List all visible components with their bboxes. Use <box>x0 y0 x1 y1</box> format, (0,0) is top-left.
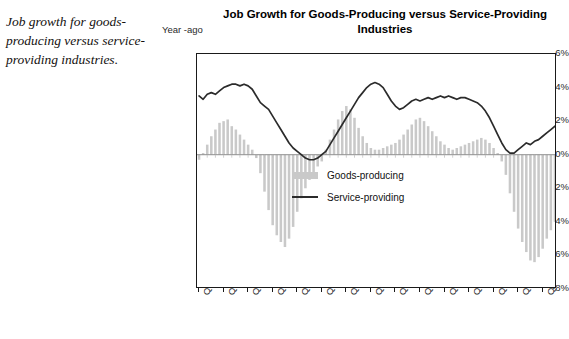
x-axis-tick-mark <box>517 288 518 292</box>
bar <box>402 135 405 155</box>
legend-label-goods-producing: Goods-producing <box>327 170 404 181</box>
bar <box>550 155 553 231</box>
bar <box>247 145 250 155</box>
bar <box>406 130 409 155</box>
legend-swatch-bar-icon <box>292 172 318 179</box>
figure-caption: Job growth for goods-producing versus se… <box>6 12 154 69</box>
bar <box>280 155 283 242</box>
bar <box>517 155 520 229</box>
service-providing-line <box>199 83 555 160</box>
bar <box>554 155 556 222</box>
bar <box>370 148 373 155</box>
legend-swatch-line-icon <box>292 196 318 198</box>
legend-item-goods-producing: Goods-producing <box>292 164 404 186</box>
bar <box>411 125 414 155</box>
bar <box>505 155 508 175</box>
bar <box>210 136 213 154</box>
bar <box>218 123 221 155</box>
bar <box>537 155 540 257</box>
x-axis-tick-mark <box>394 288 395 292</box>
bar <box>284 155 287 247</box>
bar <box>546 155 549 239</box>
chart-title: Job Growth for Goods-Producing versus Se… <box>215 7 555 36</box>
bar <box>353 118 356 155</box>
bar <box>337 119 340 154</box>
x-axis-tick-mark <box>444 288 445 292</box>
x-axis-tick-mark <box>468 288 469 292</box>
x-axis-tick-mark <box>272 288 273 292</box>
bar <box>529 155 532 261</box>
bar <box>541 155 544 249</box>
bar <box>533 155 536 262</box>
bar <box>525 155 528 252</box>
bar <box>435 136 438 154</box>
x-axis-tick-mark <box>296 288 297 292</box>
bar <box>243 140 246 155</box>
bar <box>439 141 442 154</box>
bar <box>357 128 360 155</box>
bar <box>427 126 430 155</box>
bar <box>415 119 418 154</box>
bar <box>451 150 454 155</box>
chart-legend: Goods-producing Service-providing <box>292 164 404 208</box>
bar <box>239 135 242 155</box>
bar <box>447 148 450 155</box>
bar <box>361 136 364 154</box>
bar <box>476 140 479 155</box>
bar <box>366 143 369 155</box>
bar <box>333 130 336 155</box>
bar <box>349 109 352 154</box>
bar <box>259 155 262 173</box>
bar <box>386 146 389 154</box>
bar <box>345 106 348 155</box>
x-axis-tick-mark <box>419 288 420 292</box>
bar <box>231 126 234 155</box>
bar <box>460 146 463 154</box>
bar <box>390 145 393 155</box>
y-axis-unit-label: Year -ago <box>162 24 203 35</box>
bar <box>480 138 483 155</box>
bar <box>484 140 487 155</box>
bar <box>235 130 238 155</box>
x-axis-tick-mark <box>370 288 371 292</box>
bar <box>214 130 217 155</box>
bar <box>464 145 467 155</box>
chart-container: Job Growth for Goods-Producing versus Se… <box>160 0 569 339</box>
x-axis-tick-mark <box>493 288 494 292</box>
bar <box>443 145 446 155</box>
x-axis-tick-mark <box>542 288 543 292</box>
bar <box>276 155 279 236</box>
bar <box>468 143 471 155</box>
bar <box>263 155 266 192</box>
bar <box>492 148 495 155</box>
bar <box>226 119 229 154</box>
bar <box>267 155 270 210</box>
bar <box>488 143 491 155</box>
bar <box>431 131 434 155</box>
bar <box>509 155 512 194</box>
x-axis-tick-mark <box>223 288 224 292</box>
legend-item-service-providing: Service-providing <box>292 186 404 208</box>
bar <box>521 155 524 242</box>
x-axis-tick-mark <box>198 288 199 292</box>
bar <box>206 145 209 155</box>
bar <box>398 140 401 155</box>
bar <box>394 143 397 155</box>
legend-label-service-providing: Service-providing <box>327 192 404 203</box>
bar <box>423 121 426 155</box>
bar <box>271 155 274 226</box>
bar <box>341 111 344 155</box>
bar <box>288 155 291 239</box>
bar <box>222 121 225 155</box>
bar <box>382 148 385 155</box>
x-axis-tick-mark <box>247 288 248 292</box>
bar <box>472 141 475 154</box>
bar <box>374 150 377 155</box>
bar <box>513 155 516 212</box>
bar <box>251 150 254 155</box>
bar <box>378 150 381 155</box>
x-axis-tick-mark <box>345 288 346 292</box>
bar <box>456 148 459 155</box>
bar <box>419 118 422 155</box>
x-axis-tick-mark <box>321 288 322 292</box>
